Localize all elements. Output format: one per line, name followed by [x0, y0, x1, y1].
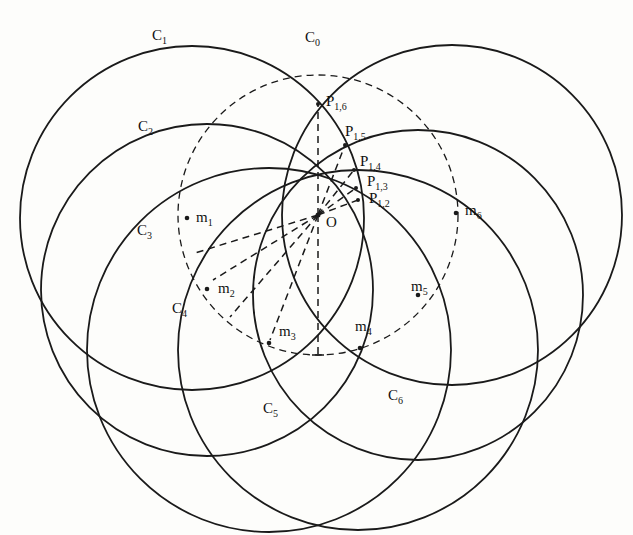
solid-circles — [20, 45, 622, 532]
label-o: O — [326, 214, 337, 230]
label-p14: P1,4 — [360, 153, 381, 172]
point-m1 — [185, 216, 190, 221]
label-p15: P1,5 — [345, 123, 366, 142]
point-p12 — [356, 198, 360, 202]
label-c5: C5 — [263, 400, 278, 419]
circle-intersection-diagram: C1C2C3C4C5C6C0Om1m2m3m4m5m6P1,6P1,5P1,4P… — [0, 0, 633, 535]
label-c0: C0 — [305, 29, 320, 48]
point-p16 — [316, 102, 320, 106]
label-c1: C1 — [152, 27, 167, 46]
point-m3 — [267, 341, 272, 346]
point-o — [316, 213, 321, 218]
point-p14 — [352, 168, 356, 172]
label-m4: m4 — [355, 318, 372, 337]
label-c2: C2 — [138, 118, 153, 137]
label-m2: m2 — [218, 280, 235, 299]
label-c6: C6 — [388, 387, 403, 406]
dashed-segment — [270, 215, 318, 340]
label-m3: m3 — [279, 323, 296, 342]
point-m2 — [205, 287, 210, 292]
dashed-segment — [195, 215, 318, 253]
label-c3: C3 — [137, 222, 152, 241]
point-m4 — [358, 346, 363, 351]
point-p15 — [343, 143, 347, 147]
labels: C1C2C3C4C5C6C0Om1m2m3m4m5m6P1,6P1,5P1,4P… — [137, 27, 482, 419]
label-p12: P1,2 — [369, 190, 390, 209]
point-m6 — [454, 211, 459, 216]
circle-c4 — [178, 170, 538, 530]
label-m1: m1 — [196, 209, 213, 228]
point-p13 — [354, 186, 358, 190]
label-m6: m6 — [465, 202, 482, 221]
label-p16: P1,6 — [326, 93, 347, 112]
